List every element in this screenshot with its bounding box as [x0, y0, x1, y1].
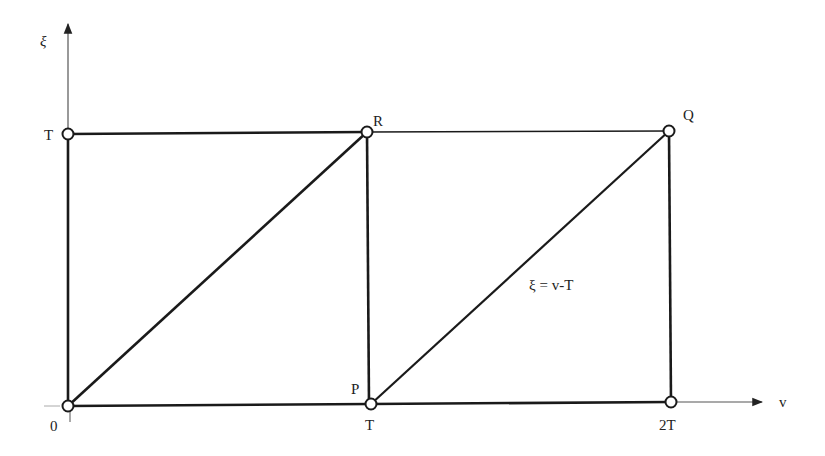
- xi-axis-label: ξ: [40, 33, 47, 49]
- node-R: [362, 127, 373, 138]
- characteristic-line-label: ξ = v-T: [529, 277, 573, 293]
- tick-label-xi-T: T: [44, 127, 53, 143]
- point-label-Q: Q: [683, 107, 694, 123]
- tick-label-v-T: T: [365, 417, 374, 433]
- point-label-P: P: [351, 381, 359, 397]
- tick-label-v-2T: 2T: [659, 417, 676, 433]
- v-axis-label: v: [779, 394, 787, 410]
- right-square: [367, 131, 671, 404]
- left-square: [68, 132, 371, 406]
- tick-label-origin: 0: [50, 418, 58, 434]
- node-xi-T: [63, 129, 74, 140]
- point-label-R: R: [373, 113, 383, 129]
- node-2T: [666, 397, 677, 408]
- node-P: [366, 399, 377, 410]
- node-origin: [63, 401, 74, 412]
- node-Q: [664, 126, 675, 137]
- characteristic-diagram: ξ v T 0 T 2T R Q P ξ = v-T: [0, 0, 825, 456]
